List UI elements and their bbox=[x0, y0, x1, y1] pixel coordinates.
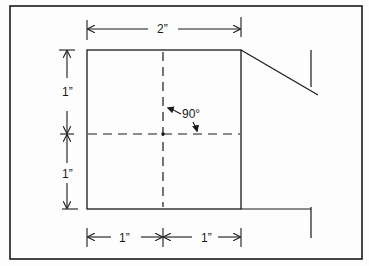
angle-label: 90° bbox=[182, 107, 200, 121]
angle-arrow-up bbox=[168, 108, 181, 114]
center-point bbox=[161, 132, 165, 136]
left-upper-height-label: 1” bbox=[62, 85, 73, 99]
angle-arrow-down bbox=[193, 122, 197, 131]
square-outline bbox=[87, 50, 241, 209]
diagram-svg: 90° 2” 1” 1” 1” 1” bbox=[0, 0, 369, 266]
diagram-canvas: 90° 2” 1” 1” 1” 1” bbox=[0, 0, 369, 266]
top-width-label: 2” bbox=[157, 22, 168, 36]
bottom-right-width-label: 1” bbox=[201, 231, 212, 245]
diagonal-line bbox=[241, 50, 318, 95]
left-lower-height-label: 1” bbox=[62, 167, 73, 181]
outer-frame bbox=[10, 6, 362, 259]
bottom-left-width-label: 1” bbox=[119, 231, 130, 245]
